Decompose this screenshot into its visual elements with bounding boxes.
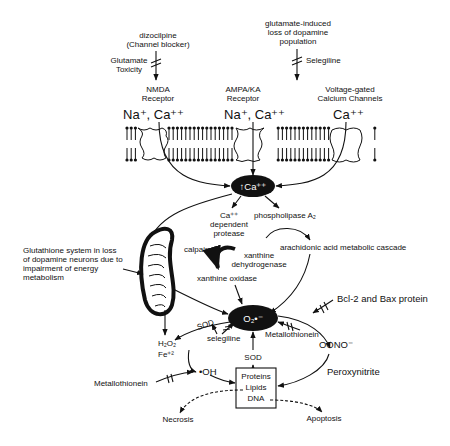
svg-text:Glutamate: Glutamate: [111, 56, 148, 65]
superoxide-label: O₂•⁻: [243, 313, 262, 324]
oono-label: OONO⁻: [319, 339, 353, 350]
oh-label: •OH: [199, 366, 217, 377]
oh-to-targets-arrow: [210, 375, 235, 383]
svg-text:Calcium Channels: Calcium Channels: [318, 94, 383, 103]
mitochondrion-icon: [141, 229, 174, 314]
xanthine-oxidase-to-superoxide-arrow: [235, 285, 242, 304]
neurotoxicity-pathway-diagram: dizocilpine (Channel blocker) Glutamate …: [0, 0, 450, 446]
svg-text:(Channel blocker): (Channel blocker): [126, 40, 189, 49]
apoptosis-label: Apoptosis: [306, 414, 341, 423]
to-necrosis-arrow: [180, 390, 243, 413]
svg-text:metabolism: metabolism: [23, 273, 64, 282]
calcium-to-phospholipase-arrow: [265, 196, 279, 208]
metallothionein-left-label: Metallothionein: [94, 379, 148, 388]
vgcc-ions: Ca⁺⁺: [333, 107, 364, 122]
svg-text:Toxicity: Toxicity: [116, 65, 142, 74]
sod-mid-label: SOD: [244, 353, 262, 362]
dizocilpine-label: dizocilpine (Channel blocker): [126, 31, 189, 49]
cell-membrane: [125, 126, 376, 162]
xanthine-oxidase-label: xanthine oxidase: [197, 274, 258, 283]
vgcc-label: Voltage-gated Calcium Channels: [318, 85, 383, 103]
block-mark: [223, 326, 232, 330]
svg-text:AMPA/KA: AMPA/KA: [226, 85, 262, 94]
svg-text:population: population: [280, 37, 317, 46]
peroxynitrite-label: Peroxynitrite: [327, 366, 380, 377]
glutamate-loss-label: glutamate-induced loss of dopamine popul…: [265, 19, 331, 46]
svg-text:xanthine: xanthine: [244, 251, 275, 260]
ampa-channel: [234, 128, 264, 162]
svg-text:of dopamine neurons due to: of dopamine neurons due to: [23, 255, 123, 264]
mito-to-superoxide-arrow: [173, 289, 228, 314]
svg-text:NMDA: NMDA: [146, 85, 170, 94]
phospholipase-to-arachidonic-arrow: [266, 228, 310, 240]
svg-text:Receptor: Receptor: [142, 94, 175, 103]
nmda-channel: [138, 128, 168, 160]
selegiline-mid-label: selegiline: [207, 334, 241, 343]
calpain-label: calpain: [184, 245, 209, 254]
to-apoptosis-arrow: [270, 400, 322, 412]
block-mark: [167, 374, 173, 383]
svg-text:Ca⁺⁺: Ca⁺⁺: [220, 211, 238, 220]
svg-text:glutamate-induced: glutamate-induced: [265, 19, 331, 28]
svg-text:dizocilpine: dizocilpine: [139, 31, 177, 40]
arachidonic-label: arachidonic acid metabolic cascade: [280, 243, 407, 252]
metallothionein-left-arrow: [156, 372, 193, 382]
calcium-label: ↑Ca⁺⁺: [240, 181, 267, 192]
selegiline-top-label: Selegiline: [306, 56, 341, 65]
svg-text:Receptor: Receptor: [227, 94, 260, 103]
h2o2-label: H₂O₂: [158, 339, 176, 348]
svg-text:protease: protease: [213, 229, 245, 238]
necrosis-label: Necrosis: [162, 415, 193, 424]
glutathione-label: Glutathione system in loss of dopamine n…: [23, 246, 123, 282]
svg-text:Lipids: Lipids: [246, 383, 267, 392]
svg-text:dependent: dependent: [210, 220, 249, 229]
ampa-ions: Na⁺, Ca⁺⁺: [224, 107, 285, 122]
svg-text:loss of dopamine: loss of dopamine: [268, 28, 329, 37]
ampa-receptor-label: AMPA/KA Receptor: [226, 85, 262, 103]
xanthine-dehydrogenase-label: xanthine dehydrogenase: [231, 251, 287, 269]
fe2-label: Fe⁺²: [158, 350, 174, 359]
metallothionein-right-label: Metallothionein: [265, 330, 319, 339]
svg-text:dehydrogenase: dehydrogenase: [231, 260, 287, 269]
svg-text:Glutathione system in loss: Glutathione system in loss: [23, 246, 116, 255]
svg-text:Voltage-gated: Voltage-gated: [325, 85, 374, 94]
oono-to-targets-arrow: [278, 354, 329, 386]
svg-text:DNA: DNA: [248, 394, 266, 403]
selegiline-arrow-b: [222, 323, 234, 334]
svg-text:impairment of energy: impairment of energy: [23, 264, 98, 273]
calcium-to-protease-arrow: [232, 196, 241, 208]
ca-protease-label: Ca⁺⁺ dependent protease: [210, 211, 249, 238]
glutamate-toxicity-label: Glutamate Toxicity: [111, 56, 148, 74]
nmda-ions: Na⁺, Ca⁺⁺: [123, 107, 184, 122]
phospholipase-label: phospholipase A₂: [254, 211, 316, 220]
nmda-receptor-label: NMDA Receptor: [142, 85, 175, 103]
svg-text:Proteins: Proteins: [241, 372, 270, 381]
bcl2-label: Bcl-2 and Bax protein: [337, 293, 428, 304]
h2o2-to-oh-arrow: [188, 350, 196, 372]
